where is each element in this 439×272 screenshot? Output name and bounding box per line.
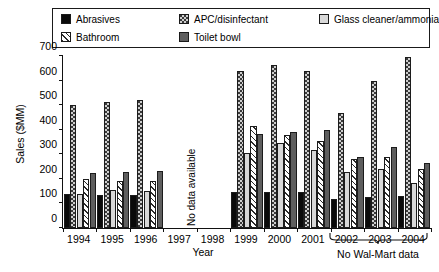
legend-label-apc-disinfectant: APC/disinfectant	[194, 14, 268, 25]
legend-label-glass-cleaner: Glass cleaner/ammonia	[334, 14, 439, 25]
x-axis-tick-label-1999: 1999	[229, 233, 262, 245]
x-axis-tick-mark	[297, 228, 298, 232]
x-axis-tick-mark	[431, 228, 432, 232]
bar-bathroom-2002	[351, 159, 357, 228]
bar-group-1998	[197, 56, 230, 228]
bar-abrasives-1996	[130, 195, 136, 228]
legend-label-bathroom: Bathroom	[76, 32, 119, 43]
bar-toilet-bowl-1996	[157, 171, 163, 228]
x-axis-title-text: Year	[192, 246, 213, 258]
bar-glass-cleaner-ammonia-1996	[144, 191, 150, 228]
bar-abrasives-2003	[365, 197, 371, 228]
bar-bathroom-2001	[317, 141, 323, 228]
bar-apc-disinfectant-2004	[405, 57, 411, 228]
legend-item-apc-disinfectant: APC/disinfectant	[179, 14, 319, 25]
bar-glass-cleaner-ammonia-2002	[344, 172, 350, 228]
bar-glass-cleaner-ammonia-2004	[411, 183, 417, 228]
y-axis-tick-label: 0	[51, 213, 57, 223]
bar-bathroom-1996	[150, 181, 156, 228]
x-axis-tick-label-1998: 1998	[196, 233, 229, 245]
legend-item-abrasives: Abrasives	[61, 14, 179, 25]
bar-glass-cleaner-ammonia-2000	[277, 143, 283, 228]
y-axis-tick-label: 700	[39, 41, 57, 51]
bar-apc-disinfectant-1994	[70, 105, 76, 228]
bar-group-1999	[230, 56, 263, 228]
bar-group-1996	[130, 56, 163, 228]
bar-bathroom-2004	[418, 169, 424, 228]
legend-swatch-apc-disinfectant	[179, 14, 189, 24]
bar-toilet-bowl-2001	[324, 130, 330, 228]
bar-toilet-bowl-2003	[391, 147, 397, 228]
bar-glass-cleaner-ammonia-2003	[378, 169, 384, 228]
bar-apc-disinfectant-2003	[371, 81, 377, 228]
bar-glass-cleaner-ammonia-1994	[77, 194, 83, 228]
bar-abrasives-1995	[97, 195, 103, 228]
legend-item-glass-cleaner: Glass cleaner/ammonia	[319, 14, 439, 25]
plot-wrapper: Sales ($MM) 0100200300400500600700 No da…	[0, 50, 437, 272]
legend-item-toilet-bowl: Toilet bowl	[179, 32, 319, 43]
y-axis-tick-label: 300	[39, 139, 57, 149]
legend-swatch-toilet-bowl	[179, 32, 189, 42]
bar-bathroom-1999	[250, 126, 256, 228]
chart-legend: Abrasives APC/disinfectant Glass cleaner…	[52, 8, 430, 48]
y-axis-tick-label: 400	[39, 115, 57, 125]
bar-glass-cleaner-ammonia-2001	[311, 150, 317, 228]
bar-group-1995	[96, 56, 129, 228]
bar-group-2000	[264, 56, 297, 228]
x-axis-tick-label-2001: 2001	[296, 233, 329, 245]
x-axis-tick-mark	[130, 228, 131, 232]
no-walmart-data-note: No Wal-Mart data	[318, 248, 438, 260]
bar-group-2003	[364, 56, 397, 228]
bar-abrasives-1999	[231, 192, 237, 228]
bar-bathroom-2000	[284, 135, 290, 228]
legend-label-abrasives: Abrasives	[76, 14, 120, 25]
bar-toilet-bowl-1994	[90, 173, 96, 228]
bar-abrasives-2000	[264, 192, 270, 228]
y-axis-title: Sales ($MM)	[14, 84, 26, 184]
plot-area: 0100200300400500600700 No data available	[62, 56, 431, 229]
bar-group-2004	[398, 56, 431, 228]
bar-toilet-bowl-1999	[257, 134, 263, 228]
x-axis-tick-mark	[230, 228, 231, 232]
bar-abrasives-2001	[298, 192, 304, 228]
x-axis-tick-mark	[96, 228, 97, 232]
bar-group-2001	[297, 56, 330, 228]
bar-apc-disinfectant-2001	[304, 71, 310, 228]
legend-item-bathroom: Bathroom	[61, 32, 179, 43]
legend-swatch-glass-cleaner	[319, 14, 329, 24]
bar-glass-cleaner-ammonia-1999	[244, 153, 250, 228]
y-axis-tick-label: 600	[39, 66, 57, 76]
legend-swatch-bathroom	[61, 32, 71, 42]
walmart-brace-icon	[328, 232, 429, 246]
bar-glass-cleaner-ammonia-1995	[110, 190, 116, 228]
x-axis-tick-mark	[264, 228, 265, 232]
bar-toilet-bowl-1995	[123, 172, 129, 228]
bar-apc-disinfectant-2002	[338, 113, 344, 228]
x-axis-tick-label-1995: 1995	[95, 233, 128, 245]
x-axis-tick-label-1996: 1996	[129, 233, 162, 245]
bar-groups	[63, 56, 431, 228]
bar-apc-disinfectant-1996	[137, 100, 143, 228]
bar-group-2002	[331, 56, 364, 228]
bar-group-1994	[63, 56, 96, 228]
bar-bathroom-1995	[117, 181, 123, 228]
bar-apc-disinfectant-2000	[271, 65, 277, 228]
bar-abrasives-2002	[331, 199, 337, 228]
x-axis-tick-label-2000: 2000	[263, 233, 296, 245]
bar-apc-disinfectant-1995	[104, 102, 110, 228]
bar-bathroom-2003	[384, 157, 390, 228]
legend-swatch-abrasives	[61, 14, 71, 24]
bar-toilet-bowl-2000	[290, 132, 296, 228]
x-axis-tick-label-1997: 1997	[162, 233, 195, 245]
bar-abrasives-2004	[398, 196, 404, 228]
y-axis-tick-label: 200	[39, 164, 57, 174]
x-axis-tick-mark	[163, 228, 164, 232]
x-axis-tick-label-1994: 1994	[62, 233, 95, 245]
bar-toilet-bowl-2002	[357, 157, 363, 228]
no-data-available-note: No data available	[186, 149, 197, 226]
bar-toilet-bowl-2004	[424, 163, 430, 228]
x-axis-tick-mark	[63, 228, 64, 232]
bar-abrasives-1994	[64, 194, 70, 228]
y-axis-tick-label: 100	[39, 188, 57, 198]
